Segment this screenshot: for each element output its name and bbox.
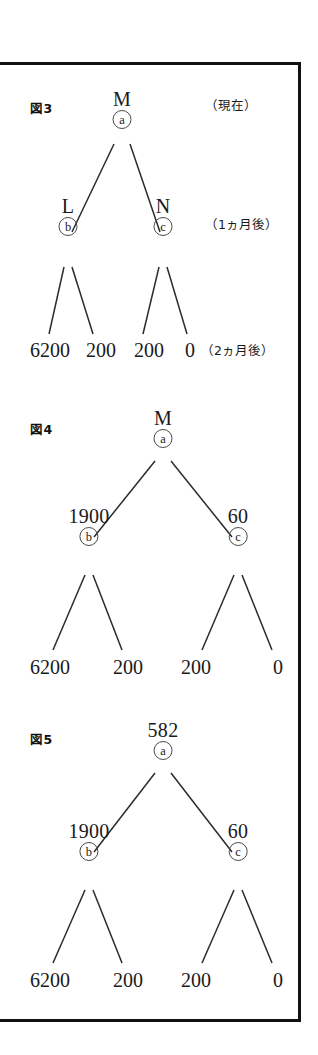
- figure-4-node-a[interactable]: M a: [154, 409, 173, 448]
- figure-3-stage-note-one-month: （1ヵ月後）: [205, 217, 278, 233]
- figure-3-decision-tree: 図3 M a L b N c 6200: [0, 62, 318, 372]
- figure-3-node-b-circle-label: b: [59, 217, 78, 236]
- figure-5-leaf-2: 200: [113, 970, 143, 990]
- figure-3-leaf-3: 200: [134, 340, 164, 360]
- figure-3-node-b-value: L: [59, 197, 78, 216]
- figure-page: 図3 M a L b N c 6200: [0, 0, 318, 1055]
- figure-5-node-a-value: 582: [148, 721, 179, 740]
- figure-3-node-a-value: M: [113, 90, 132, 109]
- figure-3-leaf-4: 0: [185, 340, 195, 360]
- figure-5-node-c-value: 60: [228, 822, 249, 841]
- figure-5-leaf-4: 0: [273, 970, 283, 990]
- figure-3-leaf-1: 6200: [30, 340, 70, 360]
- figure-4-node-a-value: M: [154, 409, 173, 428]
- figure-3-node-b[interactable]: L b: [59, 197, 78, 236]
- figure-4-leaf-4: 0: [273, 657, 283, 677]
- figure-4-leaf-2: 200: [113, 657, 143, 677]
- figure-3-leaf-2: 200: [86, 340, 116, 360]
- figure-5-node-b[interactable]: 1900 b: [68, 822, 109, 861]
- figure-4-node-b[interactable]: 1900 b: [68, 507, 109, 546]
- figure-4-leaf-1: 6200: [30, 657, 70, 677]
- figure-5-node-b-value: 1900: [68, 822, 109, 841]
- figure-5-decision-tree: 図5 582 a 1900 b 60 c: [0, 705, 318, 1022]
- figure-4-node-c-value: 60: [228, 507, 249, 526]
- figure-5-node-b-circle-label: b: [79, 842, 98, 861]
- figure-5-node-c[interactable]: 60 c: [228, 822, 249, 861]
- figure-4-leaf-3: 200: [181, 657, 211, 677]
- figure-3-node-a[interactable]: M a: [113, 90, 132, 129]
- figure-3-node-c-circle-label: c: [154, 217, 173, 236]
- figure-5-leaf-3: 200: [181, 970, 211, 990]
- figure-3-stage-note-two-months: （2ヵ月後）: [201, 341, 274, 361]
- figure-5-node-a-circle-label: a: [154, 741, 173, 760]
- figure-3-node-a-circle-label: a: [113, 110, 132, 129]
- figure-3-node-c-value: N: [154, 197, 173, 216]
- figure-4-node-c[interactable]: 60 c: [228, 507, 249, 546]
- figure-3-stage-note-present: （現在）: [205, 98, 257, 114]
- figure-5-leaf-1: 6200: [30, 970, 70, 990]
- figure-4-decision-tree: 図4 M a 1900 b 60 c 6: [0, 395, 318, 695]
- figure-4-node-b-circle-label: b: [79, 527, 98, 546]
- figure-5-node-c-circle-label: c: [228, 842, 247, 861]
- figure-4-node-a-circle-label: a: [154, 429, 173, 448]
- figure-5-node-a[interactable]: 582 a: [148, 721, 179, 760]
- figure-4-node-c-circle-label: c: [228, 527, 247, 546]
- figure-3-node-c[interactable]: N c: [154, 197, 173, 236]
- figure-4-node-b-value: 1900: [68, 507, 109, 526]
